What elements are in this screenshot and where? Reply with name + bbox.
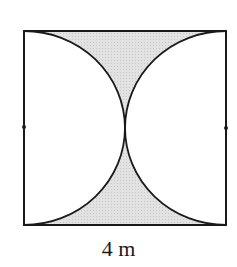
square-diagram bbox=[0, 0, 237, 267]
right-center-point bbox=[224, 126, 228, 130]
left-center-point bbox=[22, 125, 26, 129]
side-length-label: 4 m bbox=[0, 236, 237, 262]
